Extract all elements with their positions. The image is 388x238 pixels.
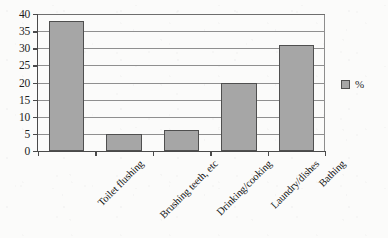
y-axis-tick-label: 40 — [19, 8, 30, 20]
y-axis-tick-mark — [33, 134, 38, 135]
y-axis-tick-mark — [33, 14, 38, 15]
x-axis-label-brushing-teeth-etc: Brushing teeth, etc — [158, 158, 220, 220]
x-axis-label-drinking-cooking: Drinking/cooking — [214, 158, 273, 217]
y-axis-tick-label: 0 — [24, 145, 30, 157]
y-axis-tick-label: 25 — [19, 59, 30, 71]
bar-drinking-cooking — [164, 130, 200, 151]
legend: % — [341, 78, 364, 90]
y-axis-tick-label: 20 — [19, 77, 30, 89]
y-axis-tick-label: 35 — [19, 25, 30, 37]
x-axis-labels-group: Toilet flushingBrushing teeth, etcDrinki… — [37, 152, 325, 238]
plot-area: 4035302520151050 — [37, 14, 325, 152]
y-axis-tick-mark — [33, 117, 38, 118]
y-axis-tick-mark — [33, 48, 38, 49]
y-axis-tick-mark — [33, 83, 38, 84]
bar-chart: 4035302520151050 Toilet flushingBrushing… — [0, 0, 388, 238]
legend-swatch-percent — [341, 80, 350, 89]
bar-brushing-teeth-etc — [106, 134, 142, 151]
x-axis-label-toilet-flushing: Toilet flushing — [95, 158, 145, 208]
legend-label-percent: % — [355, 78, 364, 90]
x-axis-label-bathing: Bathing — [317, 158, 348, 189]
x-axis-tick-mark — [325, 151, 326, 156]
y-axis-tick-label: 15 — [19, 94, 30, 106]
bar-toilet-flushing — [49, 21, 85, 151]
bar-laundry-dishes — [221, 83, 257, 152]
y-axis-tick-mark — [33, 100, 38, 101]
y-axis-tick-label: 5 — [24, 128, 30, 140]
y-axis-tick-mark — [33, 31, 38, 32]
gridline — [38, 14, 325, 15]
y-axis-tick-label: 10 — [19, 111, 30, 123]
y-axis-tick-mark — [33, 65, 38, 66]
y-axis-tick-label: 30 — [19, 42, 30, 54]
x-axis-label-laundry-dishes: Laundry/dishes — [268, 158, 321, 211]
bar-bathing — [279, 45, 315, 151]
